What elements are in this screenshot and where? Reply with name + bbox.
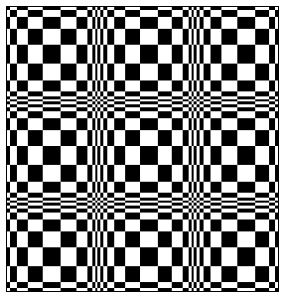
checker-cell [17, 282, 28, 288]
checker-cell [200, 96, 204, 99]
checker-cell [200, 220, 204, 232]
checker-cell [17, 209, 28, 213]
checker-cell [92, 209, 95, 213]
checker-cell [221, 213, 237, 220]
checker-cell [100, 213, 103, 220]
checker-cell [189, 182, 192, 193]
checker-cell [76, 247, 87, 266]
checker-cell [140, 220, 158, 232]
checker-cell [237, 96, 255, 99]
checker-cell [189, 96, 192, 99]
checker-cell [107, 206, 114, 209]
checker-cell [107, 213, 114, 220]
checker-cell [7, 282, 10, 288]
checker-cell [183, 104, 189, 107]
checker-cell [183, 201, 189, 203]
checker-cell [107, 231, 114, 247]
checker-cell [7, 203, 10, 206]
checker-cell [95, 10, 97, 17]
checker-cell [107, 64, 114, 81]
checker-cell [103, 203, 107, 206]
checker-cell [43, 220, 61, 232]
checker-cell [87, 193, 92, 198]
checker-cell [17, 146, 28, 165]
checker-cell [100, 206, 103, 209]
checker-cell [158, 206, 172, 209]
checker-cell [100, 288, 103, 291]
checker-cell [97, 282, 100, 288]
checker-cell [211, 146, 222, 165]
checker-cell [76, 220, 87, 232]
checker-cell [100, 99, 103, 101]
checker-cell [200, 209, 204, 213]
checker-cell [92, 182, 95, 193]
checker-cell [237, 107, 255, 111]
checker-cell [204, 104, 211, 107]
checker-cell [17, 203, 28, 206]
checker-cell [221, 206, 237, 209]
checker-cell [28, 91, 43, 96]
checker-cell [211, 118, 222, 130]
checker-cell [204, 206, 211, 209]
checker-cell [97, 96, 100, 99]
checker-cell [114, 118, 125, 130]
checker-cell [269, 17, 275, 29]
checker-cell [211, 96, 222, 99]
checker-cell [237, 101, 255, 104]
checker-cell [269, 182, 275, 193]
checker-cell [76, 101, 87, 104]
checker-cell [183, 29, 189, 45]
checker-cell [125, 91, 140, 96]
checker-cell [114, 198, 125, 201]
checker-cell [158, 266, 172, 282]
checker-cell [189, 107, 192, 111]
checker-cell [189, 220, 192, 232]
checker-cell [237, 198, 255, 201]
checker-cell [103, 96, 107, 99]
checker-cell [61, 29, 77, 45]
checker-cell [200, 282, 204, 288]
checker-cell [107, 99, 114, 101]
checker-cell [172, 101, 183, 104]
checker-cell [43, 282, 61, 288]
checker-cell [10, 193, 17, 198]
checker-cell [200, 101, 204, 104]
checker-cell [200, 7, 204, 10]
checker-cell [7, 209, 10, 213]
checker-cell [61, 201, 77, 203]
checker-cell [172, 247, 183, 266]
checker-cell [197, 193, 200, 198]
checker-cell [28, 10, 43, 17]
checker-cell [87, 99, 92, 101]
checker-cell [103, 101, 107, 104]
checker-cell [237, 282, 255, 288]
checker-cell [192, 201, 194, 203]
checker-cell [140, 282, 158, 288]
checker-cell [192, 266, 194, 282]
checker-cell [158, 29, 172, 45]
checker-cell [97, 17, 100, 29]
checker-cell [61, 165, 77, 182]
checker-cell [158, 64, 172, 81]
checker-cell [204, 29, 211, 45]
checker-cell [76, 96, 87, 99]
checker-cell [194, 118, 197, 130]
checker-cell [197, 104, 200, 107]
checker-cell [204, 111, 211, 118]
checker-cell [43, 45, 61, 64]
checker-cell [183, 64, 189, 81]
checker-cell [114, 209, 125, 213]
checker-cell [192, 29, 194, 45]
checker-cell [10, 213, 17, 220]
checker-cell [158, 193, 172, 198]
checker-cell [221, 91, 237, 96]
checker-cell [7, 107, 10, 111]
checker-cell [92, 101, 95, 104]
checker-cell [255, 165, 269, 182]
checker-cell [87, 64, 92, 81]
checker-cell [269, 80, 275, 91]
checker-cell [275, 165, 278, 182]
checker-cell [103, 247, 107, 266]
checker-cell [61, 266, 77, 282]
checker-cell [158, 104, 172, 107]
